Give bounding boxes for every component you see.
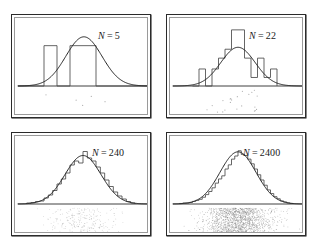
scatter-dot [248, 223, 249, 224]
scatter-dot [72, 227, 73, 228]
scatter-dot [50, 217, 51, 218]
scatter-dot [114, 215, 115, 216]
scatter-dot [202, 211, 203, 212]
scatter-dot [242, 227, 243, 228]
scatter-dot [79, 211, 80, 212]
scatter-dot [100, 215, 101, 216]
scatter-dot [244, 225, 245, 226]
scatter-dot [115, 219, 116, 220]
scatter-dot [246, 226, 247, 227]
scatter-dot [190, 211, 191, 212]
scatter-dot [216, 208, 217, 209]
scatter-dot [103, 225, 104, 226]
scatter-dot [260, 217, 261, 218]
scatter-dot [256, 214, 257, 215]
scatter-dot [259, 221, 260, 222]
scatter-dot [225, 227, 226, 228]
scatter-dot [261, 223, 262, 224]
scatter-dot [91, 219, 92, 220]
scatter-dot [259, 211, 260, 212]
scatter-dot [239, 230, 240, 231]
scatter-dot [64, 228, 65, 229]
scatter-dot [239, 225, 240, 226]
scatter-dot [235, 227, 236, 228]
scatter-dot [238, 216, 239, 217]
scatter-dot [231, 210, 232, 211]
scatter-dot [87, 222, 88, 223]
scatter-dot [233, 213, 234, 214]
scatter-dot [277, 222, 278, 223]
scatter-dot [224, 208, 225, 209]
scatter-dot [205, 212, 206, 213]
scatter-dot [246, 213, 247, 214]
scatter-dot [237, 211, 238, 212]
scatter-dot [280, 217, 281, 218]
scatter-dot [87, 230, 88, 231]
scatter-dot [249, 220, 250, 221]
scatter-dot [261, 224, 262, 225]
scatter-dot [217, 230, 218, 231]
scatter-dot [227, 209, 228, 210]
scatter-dot [262, 225, 263, 226]
sample-scatter [206, 90, 257, 113]
scatter-dot [253, 213, 254, 214]
scatter-dot [226, 209, 227, 210]
scatter-dot [249, 222, 250, 223]
scatter-dot [257, 212, 258, 213]
scatter-dot [81, 229, 82, 230]
scatter-dot [249, 222, 250, 223]
scatter-dot [225, 217, 226, 218]
scatter-dot [56, 220, 57, 221]
scatter-dot [226, 230, 227, 231]
scatter-dot [251, 212, 252, 213]
scatter-dot [234, 227, 235, 228]
scatter-dot [221, 228, 222, 229]
scatter-dot [263, 221, 264, 222]
scatter-dot [72, 208, 73, 209]
scatter-dot [233, 221, 234, 222]
scatter-dot [249, 232, 250, 233]
scatter-dot [277, 225, 278, 226]
panel-n-240: N=240 [11, 132, 151, 236]
scatter-dot [225, 210, 226, 211]
scatter-dot [268, 219, 269, 220]
scatter-dot [250, 230, 251, 231]
scatter-dot [189, 230, 190, 231]
scatter-dot [72, 213, 73, 214]
scatter-dot [109, 229, 110, 230]
scatter-dot [244, 227, 245, 228]
scatter-dot [237, 223, 238, 224]
scatter-dot [37, 208, 38, 209]
scatter-dot [268, 210, 269, 211]
scatter-dot [252, 219, 253, 220]
scatter-dot [224, 222, 225, 223]
scatter-dot [246, 228, 247, 229]
scatter-dot [265, 223, 266, 224]
scatter-dot [229, 218, 230, 219]
scatter-dot [236, 224, 237, 225]
scatter-dot [45, 94, 46, 95]
scatter-dot [221, 224, 222, 225]
scatter-dot [239, 212, 240, 213]
scatter-dot [219, 214, 220, 215]
scatter-dot [228, 220, 229, 221]
scatter-dot [255, 209, 256, 210]
scatter-dot [203, 219, 204, 220]
scatter-dot [108, 219, 109, 220]
scatter-dot [51, 223, 52, 224]
scatter-dot [251, 211, 252, 212]
scatter-dot [99, 227, 100, 228]
scatter-dot [274, 220, 275, 221]
panel-label-equals-n-2400: = [252, 147, 258, 158]
scatter-dot [106, 213, 107, 214]
scatter-dot [214, 229, 215, 230]
scatter-dot [240, 231, 241, 232]
scatter-dot [77, 224, 78, 225]
scatter-dot [262, 210, 263, 211]
scatter-dot [242, 227, 243, 228]
scatter-dot [216, 217, 217, 218]
scatter-dot [252, 222, 253, 223]
scatter-dot [233, 212, 234, 213]
scatter-dot [231, 222, 232, 223]
scatter-dot [258, 225, 259, 226]
